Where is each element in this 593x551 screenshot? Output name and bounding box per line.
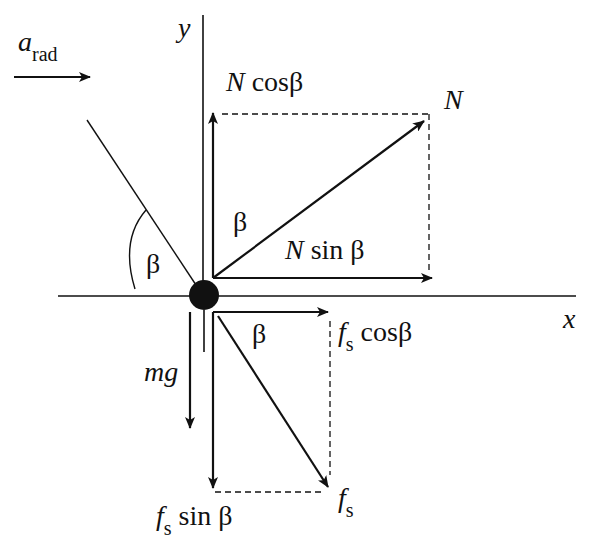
radial-acceleration-label: arad [18, 28, 58, 56]
normal-x-symbol: N [285, 234, 304, 265]
friction-x-subscript: s [346, 333, 354, 355]
bank-surface-line [87, 120, 196, 285]
x-axis-label: x [563, 305, 575, 333]
normal-x-component-label: N sin β [285, 236, 365, 264]
car-body-dot [189, 280, 219, 310]
friction-y-component-label: fs sin β [156, 502, 233, 530]
friction-x-func: cosβ [361, 316, 413, 347]
normal-y-component-label: N cosβ [226, 68, 303, 96]
normal-x-func: sin β [311, 234, 365, 265]
friction-force-arrow [218, 316, 328, 487]
normal-y-symbol: N [226, 66, 245, 97]
bank-angle-arc [130, 210, 146, 289]
friction-y-func: sin β [179, 500, 233, 531]
friction-y-subscript: s [164, 517, 172, 539]
acceleration-subscript: rad [32, 43, 58, 65]
friction-x-component-label: fs cosβ [338, 318, 412, 346]
normal-force-label: N [444, 86, 463, 114]
y-axis-label: y [178, 14, 190, 42]
friction-y-symbol: f [156, 500, 164, 531]
friction-symbol: f [338, 482, 346, 513]
acceleration-symbol: a [18, 26, 32, 57]
angle-label-bank: β [146, 250, 160, 278]
angle-label-friction: β [252, 320, 266, 348]
friction-force-label: fs [338, 484, 354, 512]
angle-label-normal: β [233, 208, 247, 236]
weight-label: mg [144, 358, 178, 386]
free-body-diagram: y x arad N cosβ N N sin β β β β fs cosβ … [0, 0, 593, 551]
friction-x-symbol: f [338, 316, 346, 347]
normal-y-func: cosβ [252, 66, 304, 97]
friction-subscript: s [346, 499, 354, 521]
